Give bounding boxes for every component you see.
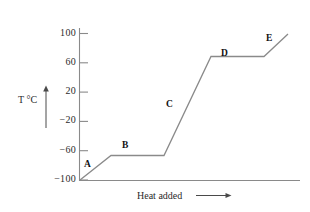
y-tick-label-60: 60 bbox=[48, 56, 76, 67]
segment-label-e: E bbox=[266, 33, 272, 43]
chart-figure: 100 60 20 −20 −60 −100 T °C Heat added A… bbox=[0, 0, 310, 212]
segment-label-c: C bbox=[166, 99, 173, 109]
y-tick-label-neg20: −20 bbox=[44, 114, 76, 125]
y-tick-label-neg60: −60 bbox=[44, 144, 76, 155]
y-tick-label-20: 20 bbox=[48, 85, 76, 96]
y-tick-label-100: 100 bbox=[48, 27, 76, 38]
segment-label-d: D bbox=[221, 48, 228, 58]
segment-label-a: A bbox=[84, 159, 91, 169]
y-axis-title: T °C bbox=[18, 94, 37, 105]
segment-label-b: B bbox=[122, 140, 128, 150]
x-axis-title: Heat added bbox=[137, 190, 182, 201]
right-arrow-icon bbox=[196, 193, 232, 198]
heating-curve-line bbox=[80, 34, 288, 180]
y-tick-label-neg100: −100 bbox=[38, 173, 76, 184]
